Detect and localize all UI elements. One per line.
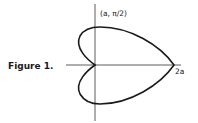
cardioid-curve — [79, 27, 174, 104]
axis-label-2a: 2a — [175, 67, 184, 76]
point-label: (a, π/2) — [100, 9, 127, 18]
cardioid-diagram: Figure 1. (a, π/2) 2a — [0, 0, 198, 123]
figure-caption: Figure 1. — [8, 61, 53, 71]
